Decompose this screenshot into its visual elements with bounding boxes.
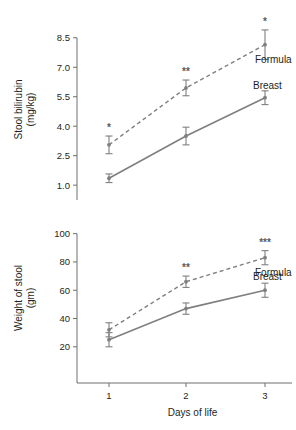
y-tick-label-bottom-1: 40 bbox=[59, 313, 70, 324]
y-tick-label-top-1: 2.5 bbox=[57, 150, 70, 161]
y-tick-label-bottom-0: 20 bbox=[59, 341, 70, 352]
series-label-bottom-breast: Breast bbox=[253, 271, 282, 282]
data-point-top-breast-day3 bbox=[263, 96, 267, 100]
y-tick-label-top-2: 4.0 bbox=[57, 121, 70, 132]
data-point-top-breast-day2 bbox=[184, 134, 188, 138]
y-axis-title-top-line2: (mg/kg) bbox=[25, 93, 36, 127]
x-axis-title: Days of life bbox=[168, 407, 218, 418]
y-tick-label-top-4: 7.0 bbox=[57, 62, 70, 73]
data-point-top-formula-day1 bbox=[107, 143, 111, 147]
x-tick-label-2: 3 bbox=[262, 390, 267, 401]
y-tick-label-bottom-3: 80 bbox=[59, 256, 70, 267]
y-tick-label-top-5: 8.5 bbox=[57, 32, 70, 43]
data-point-bottom-formula-day3 bbox=[263, 256, 267, 260]
data-point-bottom-breast-day3 bbox=[263, 288, 267, 292]
stool-chart-figure: 1.02.54.05.57.08.5Stool bilirubin(mg/kg)… bbox=[0, 0, 296, 430]
significance-marker-bottom-formula-day2: ** bbox=[182, 262, 190, 273]
significance-marker-top-formula-day2: ** bbox=[182, 66, 190, 77]
x-tick-label-0: 1 bbox=[106, 390, 111, 401]
figure-container: 1.02.54.05.57.08.5Stool bilirubin(mg/kg)… bbox=[0, 0, 296, 430]
series-label-top-formula: Formula bbox=[255, 54, 292, 65]
y-axis-title-top-line1: Stool bilirubin bbox=[13, 79, 24, 139]
data-point-top-breast-day1 bbox=[107, 176, 111, 180]
significance-marker-top-formula-day3: * bbox=[263, 16, 267, 27]
series-label-top-breast: Breast bbox=[253, 80, 282, 91]
data-point-top-formula-day3 bbox=[263, 43, 267, 47]
data-point-bottom-formula-day2 bbox=[184, 280, 188, 284]
chart-panel-bottom: 20406080100123Days of lifeWeight of stoo… bbox=[13, 228, 292, 418]
data-point-bottom-breast-day1 bbox=[107, 338, 111, 342]
chart-panel-top: 1.02.54.05.57.08.5Stool bilirubin(mg/kg)… bbox=[13, 16, 292, 200]
series-line-bottom-breast bbox=[109, 290, 265, 339]
data-point-top-formula-day2 bbox=[184, 86, 188, 90]
y-tick-label-bottom-2: 60 bbox=[59, 285, 70, 296]
y-axis-title-bottom-line2: (gm) bbox=[25, 288, 36, 309]
y-tick-label-top-3: 5.5 bbox=[57, 91, 70, 102]
series-line-top-formula bbox=[109, 45, 265, 145]
significance-marker-top-formula-day1: * bbox=[107, 122, 111, 133]
significance-marker-bottom-formula-day3: *** bbox=[259, 237, 271, 248]
y-tick-label-bottom-4: 100 bbox=[54, 228, 70, 239]
x-tick-label-1: 2 bbox=[183, 390, 188, 401]
series-line-top-breast bbox=[109, 98, 265, 179]
data-point-bottom-formula-day1 bbox=[107, 328, 111, 332]
y-axis-title-bottom-line1: Weight of stool bbox=[13, 265, 24, 331]
y-tick-label-top-0: 1.0 bbox=[57, 180, 70, 191]
data-point-bottom-breast-day2 bbox=[184, 307, 188, 311]
